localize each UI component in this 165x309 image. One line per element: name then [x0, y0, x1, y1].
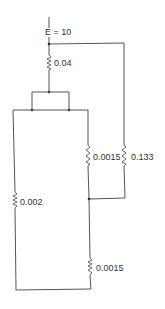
resistor-r4	[13, 192, 17, 208]
wire-split-box	[32, 92, 69, 110]
source-label: E = 10	[45, 27, 71, 37]
resistor-r5-label: 0.0015	[96, 263, 124, 273]
resistor-r2-label: 0.0015	[93, 152, 121, 162]
wire-left-lower	[15, 208, 16, 290]
wire-mid-lower	[88, 166, 89, 199]
resistor-r4-label: 0.002	[20, 197, 43, 207]
wire-lower-lower	[90, 275, 91, 289]
wire-lower-upper	[89, 199, 90, 258]
wire-bottom	[16, 289, 91, 290]
circuit-diagram: E = 10 0.04 0.002 0.0015 0.133 0.0015	[0, 0, 165, 309]
resistor-r5	[88, 258, 92, 275]
resistor-r1	[47, 55, 51, 70]
resistor-r3-label: 0.133	[131, 152, 154, 162]
wire-right-return	[89, 166, 125, 199]
wire-left-upper	[13, 110, 15, 192]
resistor-r1-label: 0.04	[54, 58, 72, 68]
resistor-r2	[86, 145, 90, 166]
resistor-r3	[122, 145, 126, 166]
